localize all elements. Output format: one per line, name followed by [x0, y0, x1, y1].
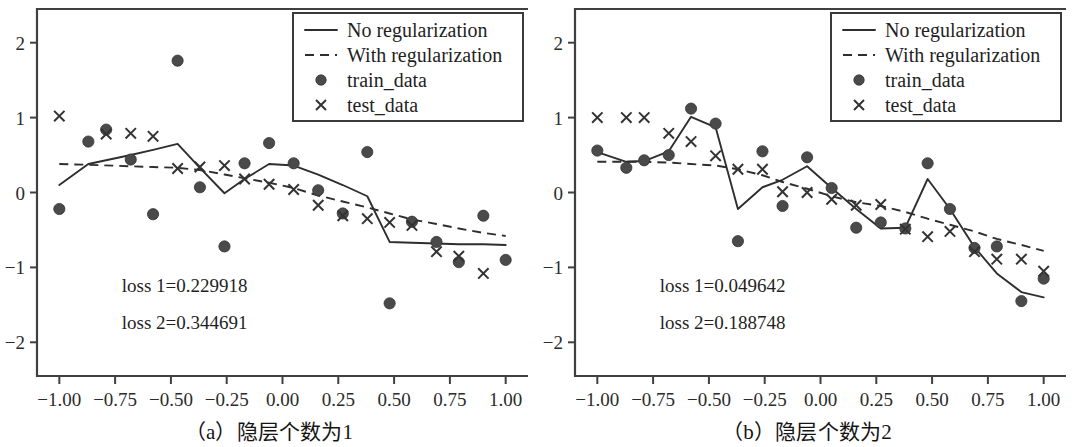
data-point-test	[219, 160, 229, 170]
data-point-test	[945, 226, 955, 236]
data-point-test	[757, 164, 767, 174]
data-point-train	[777, 200, 788, 211]
y-tick-label: 2	[554, 33, 564, 54]
data-point-train	[478, 210, 489, 221]
legend-label: train_data	[347, 69, 427, 91]
data-point-train	[219, 241, 230, 252]
annotation-loss2: loss 2=0.188748	[660, 312, 786, 333]
data-point-train	[147, 209, 158, 220]
data-point-train	[685, 103, 696, 114]
data-point-train	[639, 155, 650, 166]
data-point-train	[83, 136, 94, 147]
x-tick-label: 0.25	[860, 389, 893, 410]
series-line-solid	[597, 117, 1043, 298]
data-point-train	[313, 185, 324, 196]
data-point-test	[686, 136, 696, 146]
x-tick-label: −0.25	[205, 389, 249, 410]
data-point-train	[663, 149, 674, 160]
x-tick-label: 0.00	[266, 389, 299, 410]
x-tick-label: −1.00	[575, 389, 619, 410]
chart-a: 210−1−2−1.00−0.75−0.50−0.250.000.250.500…	[0, 0, 538, 415]
data-point-test	[876, 199, 886, 209]
y-tick-label: −2	[543, 332, 563, 353]
data-point-test	[592, 112, 602, 122]
annotation-loss1: loss 1=0.049642	[660, 275, 786, 296]
data-point-train	[851, 222, 862, 233]
data-point-test	[313, 200, 323, 210]
data-point-test	[826, 194, 836, 204]
data-point-train	[239, 158, 250, 169]
series-line-dashed	[597, 162, 1043, 251]
x-tick-label: 0.75	[433, 389, 466, 410]
data-point-test	[126, 128, 136, 138]
data-point-train	[431, 236, 442, 247]
legend-dot-icon	[854, 75, 864, 85]
y-tick-label: −2	[5, 332, 25, 353]
data-point-train	[337, 208, 348, 219]
panel-a-caption: （a）隐层个数为1	[0, 415, 538, 445]
data-point-train	[384, 298, 395, 309]
legend-label: train_data	[885, 69, 965, 91]
data-point-train	[125, 154, 136, 165]
legend-label: No regularization	[347, 19, 488, 42]
data-point-test	[384, 217, 394, 227]
data-point-train	[592, 145, 603, 156]
data-point-test	[777, 187, 787, 197]
data-point-train	[922, 158, 933, 169]
data-point-train	[500, 254, 511, 265]
legend-label: test_data	[347, 94, 418, 116]
data-point-test	[148, 131, 158, 141]
x-tick-label: −0.50	[149, 389, 193, 410]
x-tick-label: 1.00	[1027, 389, 1060, 410]
y-tick-label: −1	[543, 257, 563, 278]
data-point-test	[1016, 254, 1026, 264]
data-point-train	[453, 257, 464, 268]
annotation-loss1: loss 1=0.229918	[122, 275, 248, 296]
x-tick-label: 0.50	[915, 389, 948, 410]
data-point-train	[172, 55, 183, 66]
data-point-test	[664, 128, 674, 138]
data-point-train	[875, 217, 886, 228]
panel-a: 210−1−2−1.00−0.75−0.50−0.250.000.250.500…	[0, 0, 538, 447]
data-point-test	[239, 174, 249, 184]
x-tick-label: 0.75	[971, 389, 1004, 410]
y-tick-label: 0	[16, 183, 26, 204]
x-tick-label: 0.00	[804, 389, 837, 410]
data-point-train	[54, 203, 65, 214]
x-tick-label: 0.50	[377, 389, 410, 410]
x-tick-label: −0.25	[743, 389, 787, 410]
data-point-train	[194, 182, 205, 193]
y-tick-label: −1	[5, 257, 25, 278]
data-point-train	[732, 236, 743, 247]
x-tick-label: −0.75	[631, 389, 675, 410]
data-point-train	[362, 146, 373, 157]
data-point-train	[288, 158, 299, 169]
legend-label: With regularization	[347, 44, 502, 67]
panel-b-caption: （b）隐层个数为2	[538, 415, 1076, 445]
data-point-train	[264, 137, 275, 148]
y-tick-label: 1	[554, 108, 564, 129]
data-point-test	[639, 112, 649, 122]
data-point-train	[710, 118, 721, 129]
x-tick-label: −0.50	[687, 389, 731, 410]
data-point-test	[710, 151, 720, 161]
x-tick-label: 0.25	[322, 389, 355, 410]
legend-label: With regularization	[885, 44, 1040, 67]
y-tick-label: 2	[16, 33, 26, 54]
panel-b: 210−1−2−1.00−0.75−0.50−0.250.000.250.500…	[538, 0, 1076, 447]
data-point-train	[826, 182, 837, 193]
data-point-test	[922, 231, 932, 241]
data-point-train	[621, 162, 632, 173]
legend-dot-icon	[316, 75, 326, 85]
y-tick-label: 0	[554, 183, 564, 204]
series-line-dashed	[59, 164, 505, 236]
figure-two-panel-regularization: 210−1−2−1.00−0.75−0.50−0.250.000.250.500…	[0, 0, 1076, 447]
x-tick-label: 1.00	[489, 389, 522, 410]
annotation-loss2: loss 2=0.344691	[122, 312, 248, 333]
data-point-test	[54, 111, 64, 121]
data-point-train	[802, 152, 813, 163]
data-point-test	[478, 268, 488, 278]
legend-label: test_data	[885, 94, 956, 116]
legend-label: No regularization	[885, 19, 1026, 42]
data-point-test	[431, 246, 441, 256]
